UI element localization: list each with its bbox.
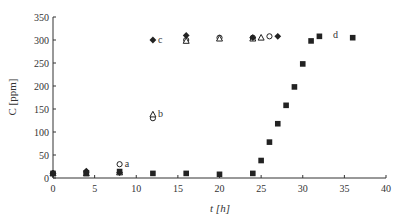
series-annotation-c: c bbox=[158, 34, 163, 45]
filled-square-marker bbox=[183, 171, 189, 177]
filled-square-marker bbox=[350, 35, 356, 41]
filled-square-marker bbox=[150, 171, 156, 177]
x-axis-label: t [h] bbox=[210, 202, 230, 214]
series-annotation-b: b bbox=[158, 108, 163, 119]
filled-diamond-marker bbox=[183, 32, 190, 39]
filled-square-marker bbox=[308, 38, 314, 44]
y-axis-label: C [ppm] bbox=[6, 79, 18, 116]
filled-diamond-marker bbox=[150, 37, 157, 44]
x-tick-label: 25 bbox=[256, 183, 266, 194]
y-tick-label: 50 bbox=[39, 150, 49, 161]
y-tick-label: 200 bbox=[34, 81, 49, 92]
filled-square-marker bbox=[84, 171, 90, 177]
filled-square-marker bbox=[292, 84, 298, 90]
data-points bbox=[50, 32, 356, 177]
x-tick-label: 20 bbox=[215, 183, 225, 194]
x-tick-label: 35 bbox=[339, 183, 349, 194]
filled-square-marker bbox=[300, 61, 306, 67]
filled-square-marker bbox=[275, 121, 281, 127]
x-tick-label: 30 bbox=[298, 183, 308, 194]
annotations: abcd bbox=[125, 29, 338, 169]
filled-square-marker bbox=[283, 103, 289, 109]
x-tick-label: 15 bbox=[173, 183, 183, 194]
x-tick-label: 0 bbox=[51, 183, 56, 194]
filled-square-marker bbox=[267, 139, 273, 145]
filled-square-marker bbox=[317, 34, 323, 40]
filled-diamond-marker bbox=[274, 33, 281, 40]
open-triangle-marker bbox=[258, 35, 264, 41]
y-tick-label: 100 bbox=[34, 127, 49, 138]
series-annotation-a: a bbox=[125, 158, 130, 169]
y-tick-label: 250 bbox=[34, 58, 49, 69]
y-tick-label: 0 bbox=[44, 173, 49, 184]
filled-square-marker bbox=[217, 172, 223, 178]
scatter-chart: 0510152025303540050100150200250300350 ab… bbox=[0, 0, 403, 223]
x-tick-label: 40 bbox=[381, 183, 391, 194]
x-tick-label: 10 bbox=[131, 183, 141, 194]
x-tick-label: 5 bbox=[92, 183, 97, 194]
filled-square-marker bbox=[117, 169, 123, 175]
filled-square-marker bbox=[250, 171, 256, 177]
open-triangle-marker bbox=[150, 111, 156, 117]
filled-square-marker bbox=[258, 158, 264, 164]
y-tick-label: 300 bbox=[34, 35, 49, 46]
y-tick-label: 350 bbox=[34, 12, 49, 23]
open-circle-marker bbox=[117, 162, 122, 167]
filled-square-marker bbox=[50, 171, 56, 177]
y-tick-label: 150 bbox=[34, 104, 49, 115]
open-circle-marker bbox=[267, 34, 272, 39]
series-annotation-d: d bbox=[333, 29, 338, 40]
